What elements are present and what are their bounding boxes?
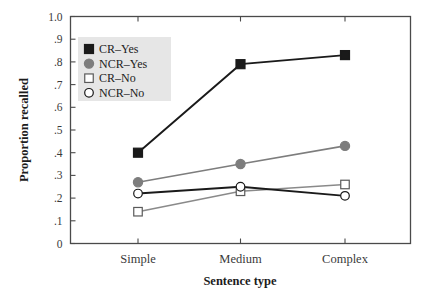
data-point-marker-1-0 bbox=[133, 178, 142, 187]
data-point-marker-3-1 bbox=[236, 182, 245, 191]
y-tick-label: .7 bbox=[54, 79, 63, 91]
data-point-marker-2-2 bbox=[341, 180, 350, 189]
y-tick-label: .8 bbox=[54, 56, 63, 68]
data-point-marker-3-0 bbox=[134, 189, 143, 198]
data-point-marker-1-1 bbox=[236, 159, 245, 168]
y-tick-label: .3 bbox=[54, 169, 63, 181]
y-tick-label: 1.0 bbox=[48, 11, 63, 23]
legend-item-label: NCR–Yes bbox=[99, 57, 147, 71]
data-point-marker-2-0 bbox=[134, 207, 143, 216]
legend-item-label: CR–No bbox=[99, 71, 136, 85]
y-tick-label: .4 bbox=[54, 147, 63, 159]
legend-item-label: NCR–No bbox=[99, 86, 144, 100]
x-axis-title: Sentence type bbox=[203, 274, 277, 288]
data-point-marker-0-0 bbox=[134, 148, 143, 157]
y-tick-label: .6 bbox=[54, 101, 63, 113]
y-tick-label: .1 bbox=[54, 215, 63, 227]
x-category-label: Medium bbox=[219, 252, 262, 266]
y-tick-label: 0 bbox=[57, 238, 63, 250]
y-axis-ticks bbox=[71, 17, 76, 244]
figure-container: 0.1.2.3.4.5.6.7.8.91.0 SimpleMediumCompl… bbox=[0, 0, 433, 296]
data-point-marker-3-2 bbox=[341, 192, 350, 201]
data-point-marker-legend-0 bbox=[85, 45, 94, 54]
y-tick-label: .9 bbox=[54, 33, 63, 45]
x-axis-category-labels: SimpleMediumComplex bbox=[120, 252, 368, 266]
y-tick-label: .2 bbox=[54, 192, 63, 204]
x-category-label: Simple bbox=[120, 252, 156, 266]
y-axis-title: Proportion recalled bbox=[17, 78, 31, 182]
data-point-marker-legend-2 bbox=[85, 74, 94, 83]
data-point-marker-legend-1 bbox=[84, 59, 93, 68]
line-chart: 0.1.2.3.4.5.6.7.8.91.0 SimpleMediumCompl… bbox=[0, 0, 433, 296]
data-point-marker-0-2 bbox=[341, 51, 350, 60]
data-point-marker-1-2 bbox=[340, 141, 349, 150]
y-axis-tick-labels: 0.1.2.3.4.5.6.7.8.91.0 bbox=[48, 11, 63, 250]
legend: CR–YesNCR–YesCR–NoNCR–No bbox=[78, 37, 171, 101]
y-tick-label: .5 bbox=[54, 124, 63, 136]
legend-item-label: CR–Yes bbox=[99, 42, 139, 56]
x-category-label: Complex bbox=[322, 252, 369, 266]
data-point-marker-0-1 bbox=[236, 60, 245, 69]
data-point-marker-legend-3 bbox=[85, 89, 94, 98]
